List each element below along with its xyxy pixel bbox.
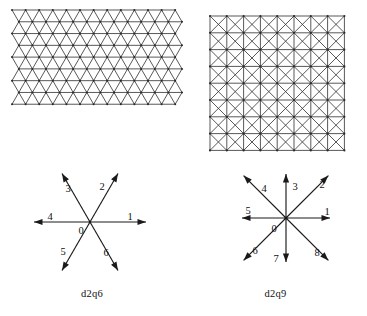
lattice-node [259,82,261,84]
lattice-diagonal-left [12,22,19,34]
d2q9-label-3: 3 [292,181,297,192]
lattice-diagonal-right [107,10,114,22]
lattice-node [18,91,20,93]
lattice-diagonal-left [148,22,155,34]
lattice-node [174,56,176,58]
lattice-node [226,65,228,67]
lattice-node [161,56,163,58]
lattice-diagonal-left [155,34,162,46]
lattice-node [276,99,278,101]
lattice-diagonal-right [100,69,107,81]
lattice-diagonal-right [141,45,148,57]
lattice-node [59,21,61,23]
lattice-diagonal-left [66,69,73,81]
lattice-diagonal-left [168,34,175,46]
lattice-diagonal-left [175,22,182,34]
lattice-node [226,15,228,17]
lattice-node [243,65,245,67]
lattice-node [79,56,81,58]
lattice-node [310,116,312,118]
lattice-diagonal-right [39,57,46,69]
lattice-node [147,56,149,58]
lattice-node [93,103,95,105]
lattice-diagonal-left [73,57,80,69]
lattice-node [38,103,40,105]
lattice-diagonal-right [107,34,114,46]
lattice-node [93,9,95,11]
lattice-diagonal-right [168,69,175,81]
lattice-node [226,32,228,34]
lattice-node [209,32,211,34]
lattice-node [133,103,135,105]
lattice-diagonal-right [155,69,162,81]
lattice-diagonal-right [134,10,141,22]
lattice-diagonal-left [162,22,169,34]
lattice-node [209,149,211,151]
lattice-node [327,149,329,151]
lattice-diagonal-left [12,92,19,104]
lattice-node [93,56,95,58]
lattice-diagonal-left [66,45,73,57]
lattice-node [243,49,245,51]
lattice-node [25,80,27,82]
lattice-node [226,99,228,101]
lattice-diagonal-left [100,34,107,46]
lattice-diagonal-right [114,22,121,34]
lattice-diagonal-left [168,10,175,22]
lattice-diagonal-right [168,45,175,57]
lattice-node [327,99,329,101]
lattice-node [259,116,261,118]
lattice-node [293,99,295,101]
lattice-node [79,80,81,82]
d2q6-arrow-1 [90,219,146,225]
lattice-diagonal-right [80,10,87,22]
lattice-node [65,80,67,82]
lattice-diagonal-left [46,81,53,93]
lattice-node [86,91,88,93]
lattice-diagonal-left [134,92,141,104]
lattice-node [161,80,163,82]
lattice-diagonal-right [148,34,155,46]
lattice-diagonal-right [121,34,128,46]
lattice-node [343,133,345,135]
lattice-node [127,91,129,93]
lattice-node [310,32,312,34]
d2q6-arrow-3 [62,174,90,222]
lattice-node [38,80,40,82]
lattice-diagonal-left [53,92,60,104]
lattice-node [327,32,329,34]
lattice-diagonal-left [39,69,46,81]
lattice-diagonal-left [114,34,121,46]
lattice-node [52,103,54,105]
lattice-diagonal-right [162,57,169,69]
lattice-node [293,15,295,17]
lattice-diagonal-right [12,57,19,69]
lattice-diagonal-right [73,92,80,104]
lattice-node [327,15,329,17]
lattice-diagonal-left [155,81,162,93]
lattice-node [120,103,122,105]
lattice-diagonal-right [19,45,26,57]
lattice-node [86,21,88,23]
lattice-node [276,32,278,34]
lattice-node [259,49,261,51]
lattice-diagonal-right [114,92,121,104]
lattice-node [52,80,54,82]
lattice-diagonal-left [66,22,73,34]
lattice-node [167,44,169,46]
lattice-node [72,91,74,93]
d2q9-label-1: 1 [324,206,329,217]
lattice-node [259,99,261,101]
lattice-diagonal-left [46,34,53,46]
lattice-diagonal-right [168,22,175,34]
lattice-node [343,82,345,84]
square-lattice-panel [206,12,351,152]
lattice-node [161,9,163,11]
lattice-node [31,68,33,70]
lattice-node [140,68,142,70]
lattice-diagonal-left [60,81,67,93]
lattice-node [11,33,13,35]
lattice-diagonal-left [155,57,162,69]
lattice-diagonal-left [121,22,128,34]
arrow-head [283,174,289,183]
